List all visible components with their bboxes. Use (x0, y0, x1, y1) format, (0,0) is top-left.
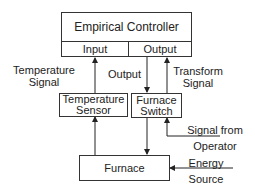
output-label: Output (108, 68, 141, 80)
temperature-sensor-box: Temperature Sensor (59, 93, 128, 117)
signal-from-operator-label: Signal from Operator (185, 122, 245, 154)
furnace-switch-box: Furnace Switch (131, 93, 182, 118)
controller-title: Empirical Controller (74, 22, 179, 33)
controller-output-port: Output (128, 41, 192, 57)
energy-source-label: Energy Source (186, 155, 226, 187)
empirical-controller-box: Empirical Controller (61, 12, 192, 42)
temperature-signal-label: Temperature Signal (12, 64, 76, 88)
controller-input-port: Input (61, 41, 129, 57)
furnace-box: Furnace (79, 155, 170, 181)
transform-signal-label: Transform Signal (172, 65, 224, 89)
